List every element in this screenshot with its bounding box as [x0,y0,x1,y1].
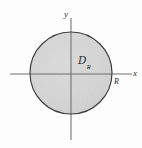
coordinate-diagram-svg [0,0,142,148]
figure-container: y x DR R [0,0,142,148]
y-axis-label: y [64,10,68,19]
region-subscript: R [87,63,91,70]
region-label-D-R: DR [78,55,90,69]
radius-label-R: R [114,78,119,86]
x-axis-label: x [133,69,137,78]
region-symbol: D [78,54,86,66]
